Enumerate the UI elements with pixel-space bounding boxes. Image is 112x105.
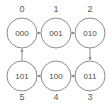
arrow-head-icon [20, 48, 23, 52]
node-label: 011 [84, 72, 97, 81]
node-label: 010 [83, 29, 97, 38]
node-label: 000 [15, 29, 29, 38]
node-label: 101 [15, 72, 29, 81]
edge-010-to-011 [88, 48, 91, 61]
gray-code-cycle-diagram: 000 0 001 1 010 2 011 3 [0, 0, 112, 105]
node-label: 001 [49, 29, 63, 38]
node-100[interactable]: 100 [41, 61, 71, 91]
node-label: 100 [49, 72, 63, 81]
node-index-label-5: 5 [19, 92, 24, 102]
arrow-head-icon [88, 57, 91, 61]
edge-101-to-000 [20, 48, 23, 61]
node-index-label-0: 0 [19, 4, 24, 14]
node-000[interactable]: 000 [7, 18, 37, 48]
node-index-label-1: 1 [53, 4, 58, 14]
node-index-label-2: 2 [87, 4, 92, 14]
node-010[interactable]: 010 [75, 18, 105, 48]
node-101[interactable]: 101 [7, 61, 37, 91]
node-index-label-3: 3 [87, 92, 92, 102]
node-001[interactable]: 001 [41, 18, 71, 48]
node-index-label-4: 4 [53, 92, 58, 102]
graph-canvas: 000 0 001 1 010 2 011 3 [0, 0, 112, 105]
node-011[interactable]: 011 [75, 61, 105, 91]
